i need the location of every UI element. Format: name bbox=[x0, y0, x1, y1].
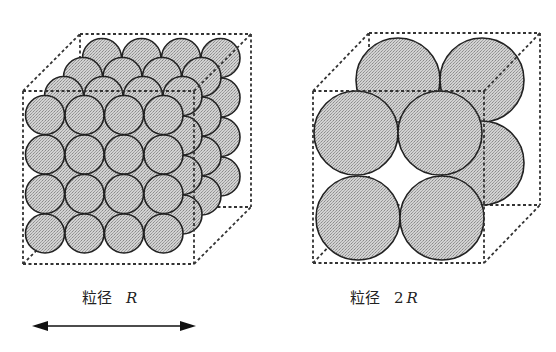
sphere bbox=[144, 96, 183, 135]
sphere bbox=[26, 175, 65, 214]
sphere bbox=[26, 214, 65, 253]
particle-size-label-small: 粒径R bbox=[82, 286, 137, 307]
large-particle-cube bbox=[313, 33, 540, 263]
sphere bbox=[65, 214, 104, 253]
sphere bbox=[314, 91, 398, 175]
label-variable: R bbox=[407, 289, 418, 307]
label-coefficient: 2 bbox=[394, 289, 404, 307]
sphere bbox=[105, 175, 144, 214]
arrow-head-right-icon bbox=[180, 321, 196, 331]
sphere bbox=[400, 176, 484, 260]
label-prefix: 粒径 bbox=[350, 289, 380, 307]
sphere bbox=[65, 96, 104, 135]
arrow-head-left-icon bbox=[32, 321, 48, 331]
particle-size-label-large: 粒径2R bbox=[350, 286, 418, 307]
label-variable: R bbox=[126, 289, 137, 307]
sphere bbox=[26, 135, 65, 174]
small-particle-cube bbox=[23, 34, 251, 264]
sphere bbox=[316, 176, 400, 260]
sphere bbox=[26, 96, 65, 135]
cube-edge-depth-bottom-right bbox=[484, 205, 540, 263]
sphere bbox=[65, 135, 104, 174]
sphere bbox=[105, 214, 144, 253]
sphere bbox=[65, 175, 104, 214]
sphere bbox=[105, 135, 144, 174]
label-prefix: 粒径 bbox=[82, 289, 112, 307]
sphere bbox=[144, 175, 183, 214]
sphere bbox=[144, 214, 183, 253]
sphere bbox=[105, 96, 144, 135]
double-arrow-icon bbox=[32, 321, 196, 331]
sphere bbox=[144, 135, 183, 174]
sphere bbox=[398, 91, 482, 175]
